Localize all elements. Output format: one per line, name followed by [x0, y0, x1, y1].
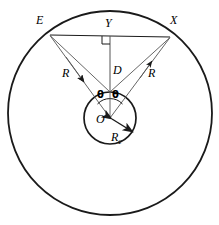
label-core-radius-subscript: c [118, 137, 122, 146]
ray-apex-to-e-line [50, 36, 110, 93]
label-radius-left: R [62, 67, 69, 79]
geometry-canvas [0, 0, 219, 225]
label-point-y: Y [105, 17, 112, 29]
label-core-radius: Rc [111, 131, 122, 146]
geometry-figure: E Y X R R D θ θ O Rc [0, 0, 219, 225]
label-point-x: X [170, 14, 177, 26]
label-point-e: E [36, 14, 43, 26]
label-angle-left: θ [97, 90, 104, 100]
right-angle-marker [102, 36, 110, 44]
label-distance-d: D [113, 64, 122, 76]
label-angle-right: θ [112, 90, 119, 100]
label-radius-right: R [148, 67, 155, 79]
label-point-o: O [96, 113, 105, 125]
